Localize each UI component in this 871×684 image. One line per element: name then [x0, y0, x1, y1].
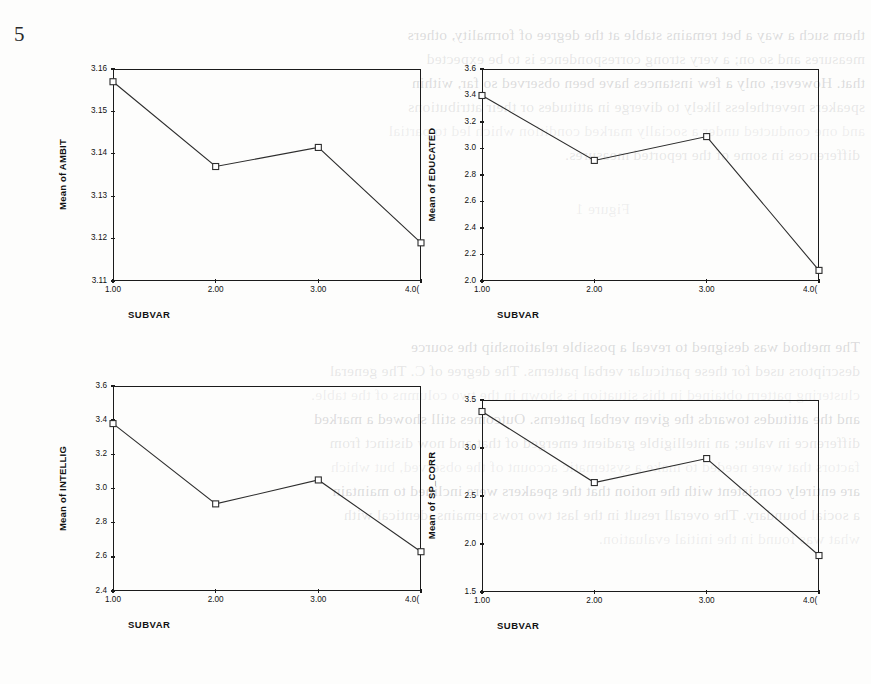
scanned-page: 5 them such a way a bet remains stable a…: [0, 0, 871, 684]
data-point-marker: [816, 553, 822, 559]
chart-panel-sp_corr: 1.52.02.53.03.51.002.003.004.0(Mean of S…: [0, 0, 871, 684]
means-plot-grid: 3.113.123.133.143.153.161.002.003.004.0(…: [0, 0, 871, 684]
series-line-sp_corr: [0, 0, 871, 684]
data-point-marker: [479, 409, 485, 415]
data-point-marker: [704, 456, 710, 462]
data-point-marker: [591, 480, 597, 486]
